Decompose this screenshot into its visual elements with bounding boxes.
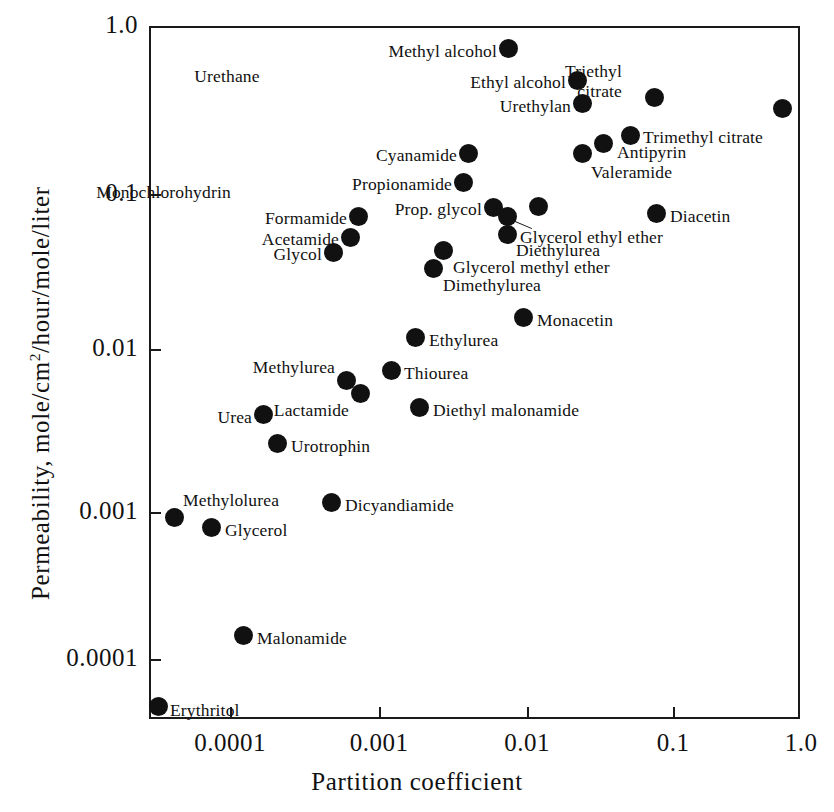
x-tick-label-0.01: 0.01	[472, 729, 582, 757]
data-point-label: Methylolurea	[183, 490, 279, 511]
data-point-label: Monacetin	[537, 310, 613, 331]
x-tick-0.01	[527, 707, 529, 719]
y-tick-1	[149, 26, 161, 28]
x-tick-label-0.001: 0.001	[319, 729, 439, 757]
data-point	[382, 361, 401, 380]
data-point-label: Triethylcitrate	[0, 61, 622, 101]
data-point	[647, 204, 666, 223]
data-point	[498, 225, 517, 244]
y-tick-0.0001	[149, 659, 161, 661]
y-axis-title-part1: Permeability, mole/cm	[27, 361, 54, 600]
scatter-chart: 1.0 0.1 0.01 0.001 0.0001 0.0001 0.001 0…	[0, 0, 834, 812]
x-axis-title: Partition coefficient	[0, 768, 834, 796]
data-point-label: Cyanamide	[0, 145, 457, 166]
data-point	[434, 241, 453, 260]
data-point	[424, 259, 443, 278]
data-point	[165, 508, 184, 527]
x-tick-0.001	[379, 707, 381, 719]
x-tick-label-0.1: 0.1	[628, 729, 718, 757]
data-point-label: Methyl alcohol	[0, 41, 497, 62]
data-point-label: Urea	[0, 407, 252, 428]
data-point	[341, 228, 360, 247]
data-point	[268, 434, 287, 453]
x-tick-label-0.0001: 0.0001	[160, 729, 300, 757]
data-point	[594, 134, 613, 153]
data-point	[149, 697, 168, 716]
data-point-label: Thiourea	[404, 363, 468, 384]
data-point	[529, 197, 548, 216]
data-point	[349, 207, 368, 226]
data-point	[322, 493, 341, 512]
data-point	[406, 328, 425, 347]
data-point-label: Valeramide	[591, 162, 672, 183]
data-point-label: Glycerol	[225, 520, 287, 541]
data-point-label: Methylurea	[0, 357, 335, 378]
data-point-label: Antipyrin	[617, 142, 686, 163]
data-point	[410, 398, 429, 417]
data-point-label: Dimethylurea	[443, 275, 541, 296]
data-point-label: Glycol	[0, 244, 322, 265]
x-tick-0.1	[673, 707, 675, 719]
y-tick-label-0.0001: 0.0001	[6, 644, 138, 672]
data-point-label: Urotrophin	[291, 436, 370, 457]
data-point	[773, 99, 792, 118]
data-point-label: Dicyandiamide	[345, 495, 454, 516]
data-point-label: Diacetin	[670, 206, 730, 227]
data-point	[499, 39, 518, 58]
data-point-label: Ethylurea	[429, 330, 498, 351]
data-point	[254, 405, 273, 424]
data-point	[498, 207, 517, 226]
data-point	[351, 384, 370, 403]
x-tick-label-1.0: 1.0	[756, 729, 834, 757]
data-point-label: Erythritol	[170, 700, 240, 721]
data-point-label: Malonamide	[257, 628, 347, 649]
y-tick-label-1: 1.0	[20, 11, 138, 39]
data-point	[573, 144, 592, 163]
data-point-label: Formamide	[0, 208, 347, 229]
data-point	[202, 518, 221, 537]
data-point-label: Diethyl malonamide	[433, 400, 579, 421]
data-point	[514, 308, 533, 327]
data-point	[459, 144, 478, 163]
data-point	[645, 88, 664, 107]
y-tick-0.001	[149, 512, 161, 514]
data-point	[324, 243, 343, 262]
data-point	[234, 626, 253, 645]
y-tick-0.01	[149, 349, 161, 351]
